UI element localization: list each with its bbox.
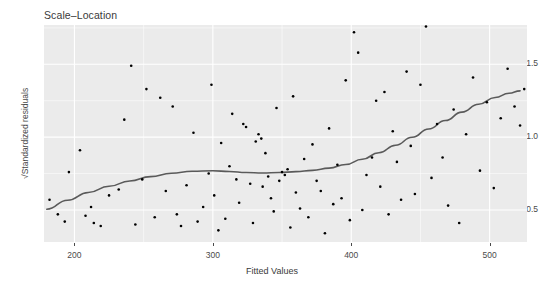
data-point: [479, 169, 482, 172]
data-point: [349, 219, 352, 222]
data-point: [452, 108, 455, 111]
data-point: [261, 185, 264, 188]
data-point: [164, 190, 167, 193]
data-point: [414, 193, 417, 196]
data-point: [171, 105, 174, 108]
data-point: [264, 152, 267, 155]
data-point: [238, 201, 241, 204]
data-point: [436, 123, 439, 126]
data-point: [202, 206, 205, 209]
grid-lines-major: [44, 25, 527, 242]
data-point: [353, 31, 356, 34]
data-point: [361, 209, 364, 212]
data-point: [292, 95, 295, 98]
data-point: [68, 171, 71, 174]
data-point: [99, 225, 102, 228]
loess-trend-line: [47, 91, 520, 209]
data-point: [289, 226, 292, 229]
scatter-canvas: [44, 25, 527, 242]
data-point: [506, 67, 509, 70]
data-point: [328, 127, 331, 130]
data-point: [123, 118, 126, 121]
data-point: [447, 204, 450, 207]
data-point: [176, 213, 179, 216]
page-title: Scale–Location: [44, 9, 117, 21]
data-point: [465, 133, 468, 136]
data-point: [523, 88, 526, 91]
data-point: [336, 164, 339, 167]
data-point: [340, 197, 343, 200]
data-point: [252, 222, 255, 225]
data-point: [486, 101, 489, 104]
data-point: [315, 180, 318, 183]
data-point: [419, 83, 422, 86]
data-point: [220, 142, 223, 145]
data-point: [492, 187, 495, 190]
data-point: [57, 213, 60, 216]
data-point: [207, 172, 210, 175]
data-point: [278, 180, 281, 183]
data-point: [319, 190, 322, 193]
data-point: [84, 214, 87, 217]
scale-location-plot-figure: Scale–Location √Standardized residuals 1…: [0, 0, 544, 286]
data-point: [513, 105, 516, 108]
data-point: [260, 137, 263, 140]
data-point: [272, 210, 275, 213]
data-point: [379, 185, 382, 188]
data-point: [396, 161, 399, 164]
data-point: [196, 220, 199, 223]
data-point: [210, 83, 213, 86]
data-point: [458, 222, 461, 225]
data-point: [242, 123, 245, 126]
data-point: [117, 188, 120, 191]
data-point: [472, 76, 475, 79]
data-point: [93, 222, 96, 225]
data-point: [108, 194, 111, 197]
data-point: [231, 113, 234, 116]
data-point: [311, 143, 314, 146]
data-point: [228, 165, 231, 168]
x-tick-label-200: 200: [67, 250, 81, 260]
data-point: [307, 216, 310, 219]
data-point: [130, 64, 133, 67]
y-axis-label: √Standardized residuals: [20, 88, 30, 179]
data-point: [249, 182, 252, 185]
data-point: [324, 232, 327, 235]
data-point: [303, 158, 306, 161]
data-point: [224, 217, 227, 220]
data-point: [245, 126, 248, 129]
data-point: [267, 175, 270, 178]
data-point: [499, 117, 502, 120]
data-point: [409, 145, 412, 148]
data-point: [90, 206, 93, 209]
data-point: [180, 225, 183, 228]
x-tick-mark-300: [213, 243, 214, 246]
data-point: [400, 198, 403, 201]
data-point: [254, 140, 257, 143]
data-point: [295, 191, 298, 194]
data-point: [371, 156, 374, 159]
data-point: [192, 131, 195, 134]
data-point: [275, 107, 278, 110]
data-point: [235, 178, 238, 181]
data-point: [357, 51, 360, 54]
data-point: [63, 220, 66, 223]
data-point: [383, 91, 386, 94]
data-point: [213, 194, 216, 197]
data-point: [286, 168, 289, 171]
data-point: [159, 97, 162, 100]
data-point: [281, 171, 284, 174]
data-point: [153, 216, 156, 219]
data-point: [257, 133, 260, 136]
data-point: [430, 177, 433, 180]
data-point: [134, 223, 137, 226]
data-point: [141, 178, 144, 181]
data-point: [387, 213, 390, 216]
data-point: [344, 79, 347, 82]
x-tick-mark-200: [74, 243, 75, 246]
x-tick-label-300: 300: [206, 250, 220, 260]
data-point: [217, 229, 220, 232]
data-point: [284, 174, 287, 177]
x-tick-label-500: 500: [483, 250, 497, 260]
data-point: [375, 99, 378, 102]
